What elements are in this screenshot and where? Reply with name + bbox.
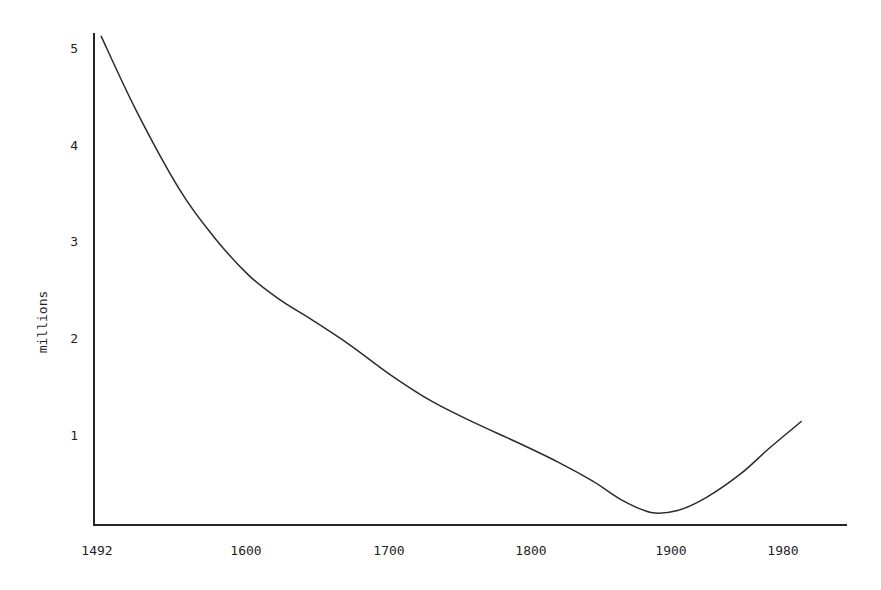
plot-area: [0, 0, 881, 590]
x-tick-label-1800: 1800: [491, 543, 571, 558]
y-tick-label-4: 4: [38, 138, 78, 153]
x-tick-label-1900: 1900: [631, 543, 711, 558]
x-tick-label-1492: 1492: [57, 543, 137, 558]
y-tick-label-3: 3: [38, 234, 78, 249]
y-tick-label-5: 5: [38, 41, 78, 56]
population-curve: [101, 36, 801, 513]
x-tick-label-1980: 1980: [743, 543, 823, 558]
y-tick-label-2: 2: [38, 331, 78, 346]
x-tick-label-1600: 1600: [206, 543, 286, 558]
y-tick-label-1: 1: [38, 428, 78, 443]
x-tick-label-1700: 1700: [349, 543, 429, 558]
chart-figure: millions 5 4 3 2 1 1492 1600 1700 1800 1…: [0, 0, 881, 590]
axis-lines: [94, 33, 847, 525]
